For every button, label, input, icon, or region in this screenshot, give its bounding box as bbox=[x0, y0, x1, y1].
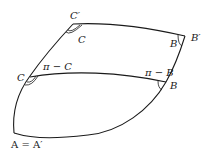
label-angle-c-top: C bbox=[78, 35, 86, 45]
angle-mark-b-prime bbox=[178, 35, 182, 46]
label-a-equals-a-prime: A = A′ bbox=[11, 140, 42, 150]
label-angle-b-top: B bbox=[170, 39, 177, 49]
label-c-prime: C′ bbox=[70, 11, 80, 21]
label-c-left: C bbox=[17, 73, 25, 83]
label-pi-minus-c: π − C bbox=[43, 62, 72, 72]
label-b-prime: B′ bbox=[191, 33, 201, 43]
label-b-right: B bbox=[170, 81, 177, 91]
top-arc-c-prime-to-b-prime bbox=[73, 24, 185, 36]
label-pi-minus-b: π − B bbox=[145, 68, 174, 78]
spherical-triangle-diagram bbox=[0, 0, 213, 155]
bottom-arc-a bbox=[14, 133, 88, 138]
